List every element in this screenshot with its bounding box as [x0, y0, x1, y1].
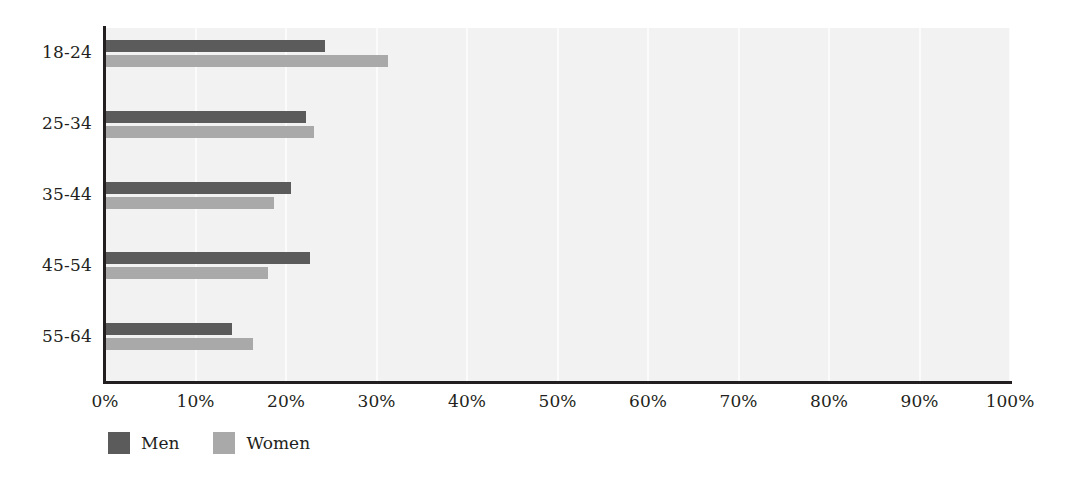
- y-axis-label-18-24: 18-24: [8, 44, 92, 61]
- bar-55-64-men: [105, 323, 232, 335]
- y-axis-label-35-44: 35-44: [8, 186, 92, 203]
- legend-label-men: Men: [141, 433, 179, 453]
- bar-55-64-women: [105, 338, 253, 350]
- y-axis-label-25-34: 25-34: [8, 115, 92, 132]
- x-axis-tick-10%: 10%: [177, 391, 215, 411]
- y-axis-label-55-64: 55-64: [8, 328, 92, 345]
- y-axis-line: [103, 26, 106, 384]
- gridline: [1009, 28, 1010, 382]
- bar-45-54-men: [105, 252, 310, 264]
- bar-35-44-women: [105, 197, 274, 209]
- bar-45-54-women: [105, 267, 268, 279]
- x-axis-tick-50%: 50%: [539, 391, 577, 411]
- gridline: [647, 28, 649, 382]
- legend-item-men[interactable]: Men: [108, 432, 179, 454]
- plot-area: [105, 28, 1010, 382]
- y-axis-category-labels: 18-2425-3435-4445-5455-64: [0, 28, 92, 382]
- y-axis-label-45-54: 45-54: [8, 257, 92, 274]
- bar-chart: 18-2425-3435-4445-5455-64 0%10%20%30%40%…: [0, 0, 1073, 488]
- x-axis-tick-60%: 60%: [629, 391, 667, 411]
- gridline: [466, 28, 468, 382]
- legend-swatch-women: [213, 432, 235, 454]
- x-axis-tick-40%: 40%: [448, 391, 486, 411]
- bar-18-24-women: [105, 55, 388, 67]
- gridline: [919, 28, 921, 382]
- bar-25-34-men: [105, 111, 306, 123]
- x-axis-tick-90%: 90%: [901, 391, 939, 411]
- x-axis-tick-30%: 30%: [358, 391, 396, 411]
- bar-25-34-women: [105, 126, 314, 138]
- x-axis-line: [103, 381, 1012, 384]
- x-axis-tick-labels: 0%10%20%30%40%50%60%70%80%90%100%: [0, 391, 1073, 415]
- gridline: [828, 28, 830, 382]
- x-axis-tick-70%: 70%: [720, 391, 758, 411]
- chart-legend: MenWomen: [108, 432, 310, 454]
- bar-18-24-men: [105, 40, 325, 52]
- x-axis-tick-20%: 20%: [267, 391, 305, 411]
- legend-label-women: Women: [246, 433, 310, 453]
- gridline: [738, 28, 740, 382]
- gridline: [376, 28, 378, 382]
- x-axis-tick-100%: 100%: [986, 391, 1035, 411]
- gridline: [285, 28, 287, 382]
- gridline: [557, 28, 559, 382]
- legend-item-women[interactable]: Women: [213, 432, 310, 454]
- bar-35-44-men: [105, 182, 291, 194]
- x-axis-tick-80%: 80%: [810, 391, 848, 411]
- legend-swatch-men: [108, 432, 130, 454]
- x-axis-tick-0%: 0%: [92, 391, 119, 411]
